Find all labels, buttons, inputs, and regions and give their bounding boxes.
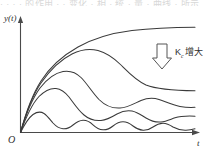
y-axis-label: y(t) [3, 13, 17, 23]
response-curve-kc-largest [21, 112, 196, 132]
x-axis [21, 130, 201, 135]
step-response-figure: K c 增大 y(t) t O [0, 0, 210, 158]
y-axis [18, 16, 23, 133]
annotation-subscript: c [181, 53, 184, 59]
annotation-text: 增大 [185, 46, 203, 57]
y-axis-arrowhead [18, 16, 23, 23]
x-axis-arrowhead [192, 130, 200, 135]
origin-label: O [8, 134, 15, 145]
response-curve-kc-medium [21, 71, 196, 132]
x-axis-label: t [197, 138, 200, 148]
response-curve-kc-smallest [21, 27, 196, 132]
response-curve-kc-large [21, 88, 196, 132]
down-arrow-icon [153, 44, 172, 69]
